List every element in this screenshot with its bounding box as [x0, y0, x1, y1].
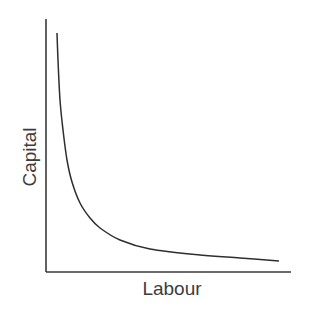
y-axis-label: Capital — [19, 127, 40, 186]
isoquant-curve — [57, 33, 279, 261]
x-axis-label: Labour — [142, 278, 202, 299]
isoquant-chart: Capital Labour — [0, 0, 312, 310]
